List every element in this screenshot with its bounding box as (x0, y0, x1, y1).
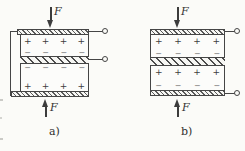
scan-artifact (0, 138, 3, 140)
electrode-bottom (150, 90, 225, 96)
charge-symbol: − (24, 51, 31, 55)
force-label-bottom: F (50, 102, 58, 114)
charge-symbol: + (155, 68, 163, 76)
charge-symbol: + (193, 68, 201, 76)
caption-a: a) (49, 126, 60, 138)
piezo-stack-b: ++++ −−−− ++++ −−−− (150, 29, 225, 96)
charge-symbol: − (194, 52, 201, 56)
charge-row: ++++ (155, 37, 220, 45)
charge-symbol: − (78, 66, 85, 70)
charge-row: −−−− (155, 51, 220, 56)
charge-symbol: − (174, 52, 181, 56)
charge-row: −−−− (155, 83, 220, 88)
caption-b: b) (181, 126, 192, 138)
scan-artifact (0, 99, 3, 101)
charge-symbol: − (60, 51, 67, 55)
force-arrow-down-head-icon (174, 20, 180, 28)
scan-artifact (0, 117, 2, 119)
electrode-middle (20, 56, 89, 64)
electrode-middle (150, 57, 225, 66)
charge-symbol: − (42, 51, 49, 55)
charge-row: ++++ (155, 68, 220, 76)
terminal-wire-middle (89, 59, 103, 60)
charge-symbol: + (24, 82, 32, 90)
piezo-stack-a: ++++ −−−− −−−− ++++ (20, 29, 89, 97)
charge-symbol: + (24, 37, 32, 45)
charge-symbol: + (174, 68, 182, 76)
terminal-circle-middle (102, 56, 108, 62)
charge-symbol: + (77, 82, 85, 90)
electrode-top (150, 29, 225, 35)
charge-symbol: + (77, 37, 85, 45)
charge-row: −−−− (24, 50, 85, 55)
charge-symbol: − (24, 66, 31, 70)
force-arrow-up-icon (45, 106, 47, 117)
charge-row: ++++ (24, 82, 85, 90)
charge-symbol: + (60, 37, 68, 45)
charge-symbol: + (212, 37, 220, 45)
terminal-circle-top (234, 28, 240, 34)
charge-symbol: + (212, 68, 220, 76)
charge-symbol: − (194, 84, 201, 88)
electrode-top (17, 29, 89, 35)
charge-symbol: − (78, 51, 85, 55)
force-arrow-down-head-icon (47, 20, 53, 28)
charge-symbol: − (155, 84, 162, 88)
force-label-top: F (54, 6, 62, 18)
charge-symbol: − (174, 84, 181, 88)
charge-symbol: − (213, 52, 220, 56)
electrode-bottom (11, 91, 89, 97)
force-arrow-down-icon (50, 7, 52, 21)
charge-symbol: + (155, 37, 163, 45)
charge-symbol: − (42, 66, 49, 70)
charge-symbol: + (174, 37, 182, 45)
charge-symbol: + (42, 37, 50, 45)
force-label-top: F (181, 6, 189, 18)
charge-symbol: − (60, 66, 67, 70)
force-arrow-up-icon (177, 106, 179, 117)
figure-piezo-connections: F ++++ −−−− −−−− ++++ F a) F (0, 0, 245, 151)
charge-symbol: − (213, 84, 220, 88)
terminal-circle-bottom (234, 90, 240, 96)
charge-symbol: − (155, 52, 162, 56)
charge-symbol: + (193, 37, 201, 45)
charge-symbol: + (42, 82, 50, 90)
charge-symbol: + (60, 82, 68, 90)
terminal-wire-top (89, 31, 103, 32)
charge-row: ++++ (24, 37, 85, 45)
force-label-bottom: F (182, 102, 190, 114)
charge-row: −−−− (24, 65, 85, 70)
force-arrow-down-icon (177, 7, 179, 21)
terminal-circle-top (102, 28, 108, 34)
